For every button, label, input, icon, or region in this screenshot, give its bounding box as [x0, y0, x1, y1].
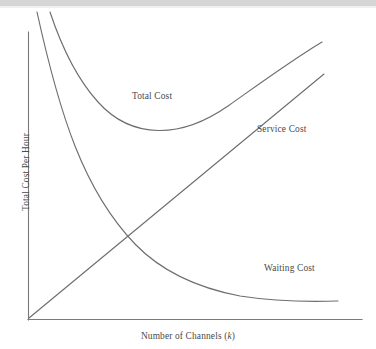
- total-cost-label: Total Cost: [132, 91, 172, 101]
- service-cost-label: Service Cost: [257, 124, 306, 134]
- waiting-cost-curve: [37, 12, 338, 301]
- chart-figure: Total Cost Service Cost Waiting Cost Tot…: [0, 0, 376, 349]
- x-axis-title-prefix: Number of Channels (: [141, 331, 228, 341]
- x-axis-title: Number of Channels (k): [0, 331, 376, 341]
- x-axis-title-suffix: ): [232, 331, 235, 341]
- total-cost-curve: [50, 12, 322, 131]
- waiting-cost-label: Waiting Cost: [264, 263, 315, 273]
- service-cost-curve: [29, 74, 324, 318]
- chart-canvas: [0, 0, 376, 349]
- y-axis-title: Total Cost Per Hour: [21, 102, 31, 242]
